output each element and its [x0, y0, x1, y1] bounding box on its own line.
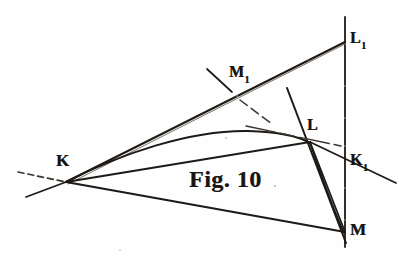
point-label-M1-subscript: 1 — [245, 74, 250, 85]
point-label-M1-text: M — [229, 63, 244, 80]
plate-speck — [225, 137, 226, 138]
point-label-L1-text: L — [350, 29, 361, 46]
point-label-L1-subscript: 1 — [361, 40, 366, 51]
line-K-to-L1-shadow — [68, 44, 345, 184]
point-label-M: M — [350, 221, 366, 238]
point-label-K-text: K — [56, 151, 69, 170]
geometry-drawing — [0, 0, 399, 267]
parabolic-arc-K-to-L — [66, 131, 310, 182]
line-K-to-L1 — [66, 42, 345, 182]
point-label-M-sub-1: M1 — [229, 64, 249, 83]
line-K-to-L — [66, 142, 310, 182]
figure-caption: Fig. 10 — [189, 166, 262, 193]
short-ray-left-of-K-upper — [18, 172, 66, 182]
point-label-K-sub-1: K1 — [350, 152, 367, 171]
point-label-K1-text: K — [350, 151, 362, 168]
point-label-K1-subscript: 1 — [363, 162, 368, 173]
short-ray-left-of-K-lower — [26, 182, 66, 197]
plate-speck — [274, 185, 276, 187]
tangent-stub-at-L — [246, 126, 341, 146]
dashed-through-M1-tail — [240, 100, 272, 124]
line-through-L-to-M-steep — [287, 88, 346, 243]
plate-speck — [119, 249, 120, 250]
point-label-M-text: M — [350, 220, 366, 239]
point-label-L-sub-1: L1 — [350, 30, 366, 49]
point-label-L: L — [307, 117, 318, 133]
point-label-K: K — [56, 152, 69, 169]
plate-speck — [307, 59, 309, 61]
point-label-L-text: L — [307, 116, 318, 133]
figure-canvas: K L M M1 L1 K1 Fig. 10 — [0, 0, 399, 267]
plate-speck — [236, 95, 238, 97]
